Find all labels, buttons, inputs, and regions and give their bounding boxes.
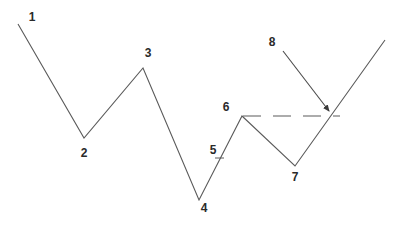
label-point-2: 2 bbox=[81, 147, 88, 159]
label-point-6: 6 bbox=[223, 101, 230, 113]
label-point-7: 7 bbox=[292, 171, 299, 183]
label-point-3: 3 bbox=[145, 47, 152, 59]
point-8-arrow bbox=[283, 51, 329, 111]
wave-path bbox=[18, 24, 385, 200]
label-point-8: 8 bbox=[269, 36, 276, 48]
label-point-1: 1 bbox=[29, 11, 36, 23]
label-point-4: 4 bbox=[201, 202, 208, 214]
label-point-5: 5 bbox=[210, 144, 217, 156]
wave-diagram bbox=[0, 0, 406, 227]
